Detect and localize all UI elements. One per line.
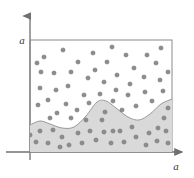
scatter-point: [58, 145, 62, 149]
figure-container: a a: [0, 0, 194, 178]
scatter-point: [38, 86, 42, 90]
scatter-point: [34, 140, 38, 144]
scatter-point: [91, 51, 95, 55]
scatter-point: [80, 141, 84, 145]
x-axis-label: a: [173, 160, 179, 172]
scatter-point: [166, 106, 170, 110]
scatter-point: [166, 70, 170, 74]
scatter-point: [60, 135, 64, 139]
scatter-point: [102, 130, 106, 134]
scatter-point: [134, 135, 138, 139]
scatter-point: [115, 73, 119, 77]
scatter-point: [28, 133, 32, 137]
scatter-point: [64, 102, 68, 106]
scatter-point: [162, 116, 166, 120]
scatter-point: [154, 61, 158, 65]
scatter-point: [109, 141, 113, 145]
scatter-point: [93, 68, 97, 72]
scatter-point: [118, 129, 122, 133]
plot-content: [26, 45, 176, 156]
scatter-point: [35, 61, 39, 65]
scatter-point: [158, 78, 162, 82]
scatter-point: [103, 110, 107, 114]
scatter-point: [76, 131, 80, 135]
scatter-point: [39, 70, 43, 74]
scatter-point: [126, 93, 130, 97]
scatter-point: [155, 139, 159, 143]
scatter-point: [86, 76, 90, 80]
scatter-point: [105, 60, 109, 64]
scatter-point: [51, 128, 55, 132]
scatter-point: [69, 116, 73, 120]
scatter-point: [55, 111, 59, 115]
scatter-point: [46, 98, 50, 102]
scatter-point: [166, 141, 170, 145]
scatter-point: [134, 104, 138, 108]
scatter-point: [102, 80, 106, 84]
scatter-point: [46, 141, 50, 145]
scatter-point: [52, 71, 56, 75]
scatter-point: [76, 60, 80, 64]
scatter-point: [98, 92, 102, 96]
scatter-point: [94, 138, 98, 142]
scatter-point: [61, 48, 65, 52]
scatter-point: [88, 129, 92, 133]
scatter-point: [132, 66, 136, 70]
scatter-point: [147, 131, 151, 135]
scatter-point: [75, 108, 79, 112]
y-axis-label: a: [19, 34, 25, 46]
scatter-point: [66, 84, 70, 88]
scatter-point: [130, 125, 134, 129]
scatter-point: [161, 89, 165, 93]
scatter-point: [142, 75, 146, 79]
scatter-point: [144, 143, 148, 147]
scatter-point: [110, 45, 114, 49]
scatter-point: [150, 99, 154, 103]
scatter-point: [164, 129, 168, 133]
scatter-point: [87, 101, 91, 105]
scatter-point: [54, 88, 58, 92]
shaded-region: [26, 99, 176, 156]
scatter-point: [69, 70, 73, 74]
scatter-point: [128, 82, 132, 86]
scatter-point: [156, 126, 160, 130]
scatter-point: [145, 53, 149, 57]
scatter-point: [82, 93, 86, 97]
scatter-point: [122, 140, 126, 144]
scatter-point: [36, 103, 40, 107]
scatter-point: [159, 46, 163, 50]
scatter-point: [42, 55, 46, 59]
scatter-point: [48, 116, 52, 120]
scatter-point: [114, 88, 118, 92]
scatter-point: [84, 118, 88, 122]
scatter-point: [143, 90, 147, 94]
scatter-point: [100, 118, 104, 122]
scatter-point: [124, 53, 128, 57]
scatter-point: [120, 108, 124, 112]
scatter-point: [111, 99, 115, 103]
scatter-point: [111, 129, 115, 133]
scatter-point: [38, 129, 42, 133]
scatter-region-figure: a a: [0, 0, 194, 178]
scatter-point: [67, 143, 71, 147]
